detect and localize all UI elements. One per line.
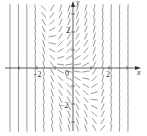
slope-segment xyxy=(111,54,112,61)
slope-segment xyxy=(43,89,44,96)
slope-segment xyxy=(51,110,53,117)
slope-segment xyxy=(51,117,53,124)
slope-segment xyxy=(102,19,103,26)
slope-segment xyxy=(75,90,79,96)
slope-segment xyxy=(93,26,95,33)
slope-segment xyxy=(76,118,78,125)
y-tick-label-pos2: 2 xyxy=(66,27,70,35)
slope-segment xyxy=(102,47,103,54)
slope-segment xyxy=(76,125,78,132)
slope-segment xyxy=(59,5,61,12)
slope-segment xyxy=(67,40,71,46)
slope-segment xyxy=(92,118,96,124)
slope-segment xyxy=(76,33,80,39)
slope-segment xyxy=(111,124,112,131)
slope-segment xyxy=(93,40,95,47)
slope-segment xyxy=(35,61,36,68)
slope-segment xyxy=(74,64,81,65)
slope-segment xyxy=(85,26,88,33)
slope-segment xyxy=(27,4,28,11)
slope-segment xyxy=(51,82,54,89)
slope-segment xyxy=(57,70,63,73)
slope-segment xyxy=(58,48,64,52)
slope-segment xyxy=(41,5,46,10)
slope-segment xyxy=(42,26,45,33)
slope-segment xyxy=(94,4,95,11)
slope-segment xyxy=(50,68,54,74)
slope-segment xyxy=(49,27,55,31)
slope-segment xyxy=(57,57,64,59)
slope-segment xyxy=(43,117,44,124)
slope-segment xyxy=(102,68,104,75)
slope-segment xyxy=(111,117,112,124)
slope-segment xyxy=(68,118,70,125)
slope-segment xyxy=(51,124,52,131)
slope-segment xyxy=(102,4,103,11)
origin-label: 0 xyxy=(65,70,69,78)
slope-segment xyxy=(83,55,88,60)
slope-segment xyxy=(35,26,36,33)
slope-segment xyxy=(93,33,95,40)
slope-segment xyxy=(76,97,80,103)
slope-segment xyxy=(42,19,46,25)
slope-segment xyxy=(111,40,112,47)
slope-segment xyxy=(111,11,112,18)
slope-segment xyxy=(92,125,96,131)
slope-segment xyxy=(43,124,44,131)
slope-segment xyxy=(101,111,104,117)
slope-segment xyxy=(58,83,62,89)
slope-segment xyxy=(66,48,71,53)
slope-segment xyxy=(91,99,98,100)
axes xyxy=(5,1,141,131)
slope-segment xyxy=(35,47,36,54)
slope-segment xyxy=(102,40,103,47)
slope-segment xyxy=(93,61,96,67)
slope-segment xyxy=(50,62,54,68)
slope-segment xyxy=(51,96,53,103)
slope-segment xyxy=(27,11,28,18)
slope-segment xyxy=(101,118,105,124)
slope-segment xyxy=(92,76,97,81)
slope-segment xyxy=(111,75,112,82)
slope-segment xyxy=(35,110,36,117)
slope-segment xyxy=(35,19,36,26)
slope-segment xyxy=(111,89,112,96)
slope-segment xyxy=(102,75,104,82)
slope-segment xyxy=(100,125,105,130)
slope-segment xyxy=(92,69,96,75)
slope-segment xyxy=(59,110,61,117)
slope-segment xyxy=(27,19,28,26)
slope-segment xyxy=(59,90,63,96)
slope-segment xyxy=(102,11,103,18)
slope-segment xyxy=(76,12,78,19)
slope-segment xyxy=(102,54,103,61)
y-axis-label: y xyxy=(76,0,80,7)
slope-segment xyxy=(58,41,63,46)
slope-segment xyxy=(76,111,79,118)
slope-segment xyxy=(102,89,104,96)
slope-segment xyxy=(84,104,88,110)
x-axis-label: x xyxy=(137,69,141,77)
slope-segment xyxy=(119,117,120,124)
slope-segment xyxy=(94,12,96,19)
slope-segment xyxy=(35,40,36,47)
slope-segment xyxy=(68,5,70,12)
slope-segment xyxy=(92,111,97,116)
slope-segment xyxy=(68,111,71,118)
slope-segment xyxy=(93,54,96,61)
slope-segment xyxy=(76,26,79,33)
slope-segment xyxy=(50,12,54,18)
x-tick-label-pos2: 2 xyxy=(106,71,110,79)
slope-segment xyxy=(43,96,44,103)
slope-segment xyxy=(74,77,80,81)
slope-segment xyxy=(60,125,62,132)
slope-segment xyxy=(85,12,87,19)
slope-segment xyxy=(35,33,36,40)
slope-segment xyxy=(75,40,79,46)
slope-segment xyxy=(49,36,56,37)
slope-segment xyxy=(67,90,71,96)
slope-segment xyxy=(51,75,54,82)
slope-segment xyxy=(43,75,44,82)
slope-segment xyxy=(84,111,87,118)
slope-segment xyxy=(59,33,63,39)
